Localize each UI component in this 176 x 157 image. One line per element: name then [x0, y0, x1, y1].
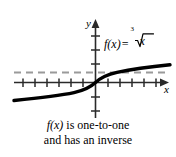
equation-equals-sign: = — [121, 37, 130, 51]
caption-line-2: and has an inverse — [0, 133, 176, 148]
radical-index-3: 3 — [130, 26, 134, 33]
cube-root-function-figure: y x f(x)= 3 x f(x) is one-to-one and has… — [0, 0, 176, 157]
y-axis — [92, 19, 100, 118]
caption-function-name: f(x) — [47, 118, 64, 132]
radicand-x: x — [139, 35, 144, 47]
x-axis-label: x — [164, 84, 169, 95]
equation-function-part: f(x) — [104, 37, 121, 51]
caption-line-1-rest: is one-to-one — [63, 118, 129, 132]
cube-root-radical: 3 x — [130, 33, 154, 50]
function-equation-label: f(x)= 3 x — [104, 33, 154, 50]
figure-caption: f(x) is one-to-one and has an inverse — [0, 118, 176, 148]
caption-line-1: f(x) is one-to-one — [0, 118, 176, 133]
y-axis-label: y — [86, 18, 91, 29]
